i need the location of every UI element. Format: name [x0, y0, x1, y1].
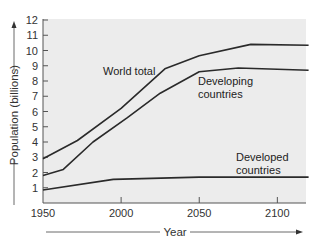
x-axis-arrow-head-icon — [296, 230, 303, 235]
y-tick-label: 6 — [32, 106, 38, 118]
y-tick-label: 5 — [32, 121, 38, 133]
y-axis-title-group: Population (billions) — [8, 21, 20, 205]
series-label: Developing — [198, 75, 253, 87]
x-tick-label: 2000 — [109, 207, 133, 219]
series-label: Developed — [236, 151, 289, 163]
x-tick-label: 2050 — [187, 207, 211, 219]
series-label: World total — [103, 65, 155, 77]
y-tick-label: 12 — [26, 14, 38, 26]
x-tick-label: 2100 — [265, 207, 289, 219]
y-tick-label: 1 — [32, 182, 38, 194]
y-tick-label: 10 — [26, 45, 38, 57]
x-axis-title: Year — [163, 226, 186, 238]
y-tick-label: 3 — [32, 151, 38, 163]
y-axis-arrow-head-icon — [12, 21, 17, 28]
y-tick-label: 9 — [32, 60, 38, 72]
y-tick-label: 2 — [32, 167, 38, 179]
y-tick-label: 7 — [32, 90, 38, 102]
y-tick-label: 11 — [27, 29, 38, 41]
series-label: countries — [198, 88, 243, 100]
population-chart: 123456789101112 1950200020502100 World t… — [0, 0, 318, 243]
y-axis-title: Population (billions) — [8, 65, 20, 166]
x-axis-title-group: Year — [46, 226, 303, 238]
y-tick-label: 8 — [32, 75, 38, 87]
y-tick-label: 4 — [32, 136, 38, 148]
series-label: countries — [236, 164, 281, 176]
x-tick-label: 1950 — [31, 207, 55, 219]
